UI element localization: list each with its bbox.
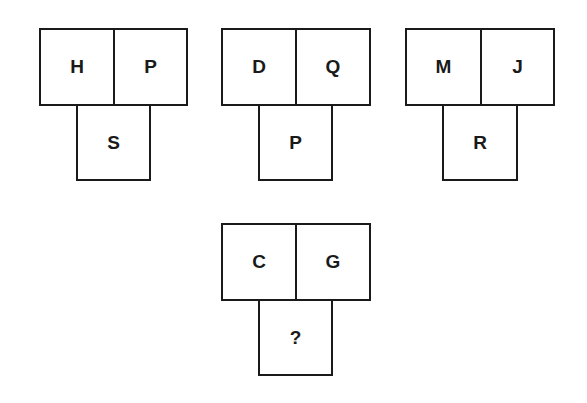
cell-bottom: R [442, 104, 518, 181]
cell-top-left: H [39, 28, 115, 106]
cell-top-right: J [480, 28, 555, 106]
cell-top-left: C [221, 223, 297, 301]
cell-top-right: G [295, 223, 371, 301]
cell-bottom-unknown: ? [258, 299, 333, 376]
cell-top-left: D [221, 28, 297, 106]
cell-bottom: S [76, 104, 151, 181]
cell-bottom: P [258, 104, 333, 181]
cell-top-right: Q [295, 28, 371, 106]
cell-top-left: M [405, 28, 482, 106]
cell-top-right: P [113, 28, 188, 106]
